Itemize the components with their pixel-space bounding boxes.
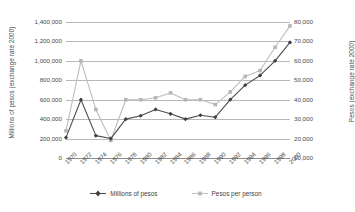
- data-point-marker: [169, 91, 173, 95]
- y-axis-left-tick-label: 0: [59, 155, 62, 161]
- data-point-marker: [184, 98, 188, 102]
- data-point-marker: [79, 98, 83, 102]
- data-point-marker: [168, 112, 172, 116]
- y-axis-left-tick-label: 800,000: [40, 77, 62, 83]
- data-point-marker: [273, 45, 277, 49]
- plot-area: [66, 22, 290, 158]
- data-point-marker: [154, 107, 158, 111]
- y-axis-left-tick-label: 200,000: [40, 136, 62, 142]
- data-point-marker: [139, 114, 143, 118]
- data-point-marker: [183, 117, 187, 121]
- data-point-marker: [64, 129, 68, 133]
- legend-item-millions-of-pesos: Millions of pesos: [90, 190, 157, 197]
- series-line: [66, 42, 290, 138]
- data-point-marker: [243, 75, 247, 79]
- legend-marker-square-icon: [192, 190, 208, 197]
- y-axis-left-tick-label: 400,000: [40, 116, 62, 122]
- y-axis-left-tick-label: 1,000,000: [34, 58, 62, 64]
- data-point-marker: [64, 136, 68, 140]
- y-axis-right-tick-label: 70,000: [294, 38, 313, 44]
- series-lines: [66, 22, 290, 158]
- data-point-marker: [198, 113, 202, 117]
- y-axis-right-tick-label: 30,000: [294, 116, 313, 122]
- y-axis-left-tick-label: 1,200,000: [34, 38, 62, 44]
- data-point-marker: [288, 24, 292, 28]
- legend-item-pesos-per-person: Pesos per person: [192, 190, 262, 197]
- y-axis-right-tick-label: 20,000: [294, 136, 313, 142]
- data-point-marker: [124, 98, 128, 102]
- data-point-marker: [139, 98, 143, 102]
- y-axis-left-tick-label: 1,400,000: [34, 19, 62, 25]
- data-point-marker: [79, 59, 83, 63]
- data-point-marker: [258, 69, 262, 73]
- y-axis-left-ticks: 0200,000400,000600,000800,0001,000,0001,…: [22, 0, 62, 212]
- y-axis-right-ticks: 10,00020,00030,00040,00050,00060,00070,0…: [294, 0, 334, 212]
- y-axis-right-tick-label: 60,000: [294, 58, 313, 64]
- y-axis-right-tick-label: 40,000: [294, 97, 313, 103]
- y-axis-right-title: Pesos (exchange rate 2000): [348, 27, 355, 137]
- y-axis-right-tick-label: 80,000: [294, 19, 313, 25]
- data-point-marker: [154, 96, 158, 100]
- y-axis-left-title: Millions of pesos (exchange rate 2000): [8, 29, 15, 139]
- legend-label: Millions of pesos: [110, 190, 157, 197]
- series-line: [66, 26, 290, 141]
- data-point-marker: [199, 98, 203, 102]
- data-point-marker: [94, 108, 98, 112]
- data-point-marker: [94, 134, 98, 138]
- legend-marker-diamond-icon: [90, 190, 106, 197]
- legend-label: Pesos per person: [212, 190, 262, 197]
- data-point-marker: [228, 90, 232, 94]
- y-axis-left-tick-label: 600,000: [40, 97, 62, 103]
- data-point-marker: [214, 103, 218, 107]
- y-axis-right-tick-label: 50,000: [294, 77, 313, 83]
- chart-legend: Millions of pesos Pesos per person: [0, 190, 352, 197]
